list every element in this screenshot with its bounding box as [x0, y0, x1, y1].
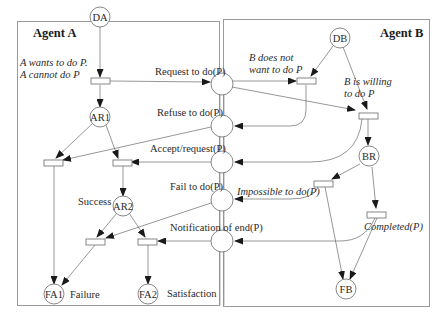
place-br-label: BR — [362, 151, 376, 162]
transition-a-request — [91, 78, 110, 84]
place-fa1-label: FA1 — [45, 289, 63, 300]
annotation-b-not-1: B does not — [249, 52, 294, 63]
transition-b-refuse — [297, 78, 316, 84]
annotation-impossible: Impossible to do(P) — [236, 186, 320, 198]
place-db-label: DB — [333, 33, 348, 44]
transition-a-accept — [113, 160, 132, 166]
annotation-b-willing-1: B is willing — [344, 76, 392, 87]
transition-b-completed — [367, 212, 386, 218]
annotation-a-wants-1: A wants to do P. — [19, 57, 88, 68]
annotation-success: Success — [78, 196, 111, 207]
agent-a-title: Agent A — [33, 26, 76, 40]
annotation-completed: Completed(P) — [364, 221, 423, 233]
petri-net-diagram: Agent A Agent B — [0, 0, 446, 322]
place-refuse — [211, 115, 233, 137]
label-accept: Accept/request(P) — [150, 143, 226, 155]
place-accept — [211, 151, 233, 173]
label-request: Request to do(P) — [155, 66, 226, 78]
annotation-a-wants-2: A cannot do P — [19, 69, 80, 80]
place-fail — [211, 189, 233, 211]
transition-a-fail — [44, 160, 63, 166]
place-da-label: DA — [92, 12, 108, 23]
place-fb-label: FB — [340, 284, 353, 295]
label-fail: Fail to do(P) — [170, 181, 224, 193]
annotation-b-willing-2: to do P — [344, 88, 375, 99]
place-fa2-label: FA2 — [139, 289, 157, 300]
annotation-satisfaction: Satisfaction — [167, 288, 217, 299]
transition-b-willing — [359, 113, 378, 119]
transition-a-satisfaction — [138, 239, 157, 245]
place-notification — [211, 230, 233, 252]
label-refuse: Refuse to do(P) — [157, 107, 223, 119]
annotation-b-not-2: want to do P — [249, 64, 303, 75]
place-ar2-label: AR2 — [113, 201, 133, 212]
agent-b-title: Agent B — [380, 26, 423, 40]
transition-a-failure — [86, 239, 105, 245]
annotation-failure: Failure — [70, 289, 100, 300]
place-ar1-label: AR1 — [90, 112, 110, 123]
label-notification: Notification of end(P) — [170, 222, 263, 234]
